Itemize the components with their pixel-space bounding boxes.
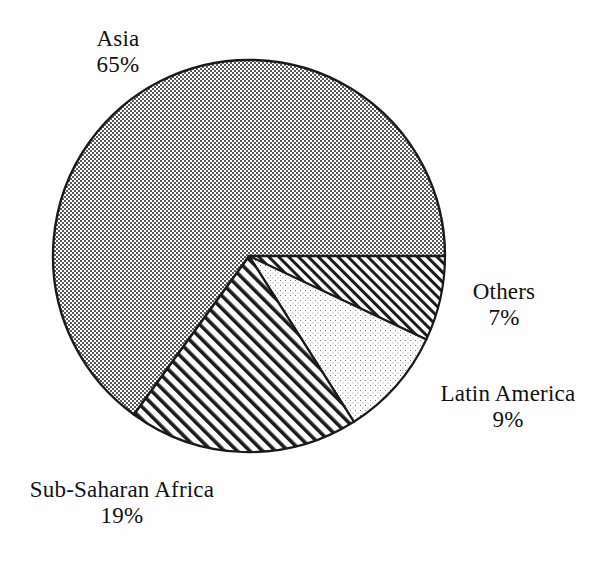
slice-label-asia-name: Asia — [58, 26, 178, 52]
slice-label-sub-saharan-africa-percent: 19% — [18, 503, 226, 529]
slice-label-sub-saharan-africa-name: Sub-Saharan Africa — [18, 477, 226, 503]
slice-label-latin-america: Latin America 9% — [432, 381, 584, 433]
slice-label-asia: Asia 65% — [58, 26, 178, 78]
slice-label-others-name: Others — [452, 279, 556, 305]
pie-chart-figure: Asia 65% Others 7% Latin America 9% Sub-… — [0, 0, 610, 561]
slice-label-asia-percent: 65% — [58, 52, 178, 78]
slice-label-latin-america-name: Latin America — [432, 381, 584, 407]
slice-label-others: Others 7% — [452, 279, 556, 331]
slice-label-sub-saharan-africa: Sub-Saharan Africa 19% — [18, 477, 226, 529]
slice-label-latin-america-percent: 9% — [432, 407, 584, 433]
slice-label-others-percent: 7% — [452, 305, 556, 331]
